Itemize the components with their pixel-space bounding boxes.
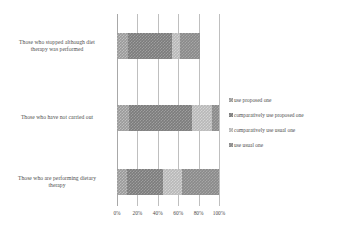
bar-segment[interactable] (212, 105, 219, 131)
category-label: Those who stopped although diettherapy w… (1, 39, 113, 54)
legend-swatch-icon (229, 143, 233, 147)
category-label-line: therapy (1, 182, 113, 190)
legend-swatch-icon (229, 128, 233, 132)
x-tick-label: 100% (207, 210, 231, 216)
category-label-line: therapy was performed (1, 46, 113, 54)
category-label: Those who have not carried out (1, 114, 113, 122)
legend-label: use proposed one (234, 93, 271, 108)
legend-item[interactable]: use proposed one (229, 93, 345, 108)
legend-swatch-icon (229, 113, 233, 117)
legend-label: comparatively use proposed one (234, 108, 304, 123)
x-axis-tick-labels: 0%20%40%60%80%100% (117, 210, 219, 222)
category-label-line: Those who have not carried out (1, 114, 113, 122)
plot-area (117, 14, 219, 206)
stacked-bar-chart: Those who stopped although diettherapy w… (0, 0, 346, 243)
bar-segment[interactable] (129, 105, 192, 131)
bar-segment[interactable] (163, 169, 182, 195)
bar-segment[interactable] (180, 33, 199, 59)
bar-segment[interactable] (117, 33, 128, 59)
legend-item[interactable]: use usual one (229, 138, 345, 153)
bar-segment[interactable] (117, 169, 127, 195)
bar-row[interactable] (117, 105, 219, 131)
legend-swatch-icon (229, 98, 233, 102)
bar-segment[interactable] (117, 105, 129, 131)
legend-label: comparatively use usual one (234, 123, 295, 138)
bar-segment[interactable] (192, 105, 211, 131)
category-label-line: Those who stopped although diet (1, 39, 113, 47)
category-label: Those who are performing dietarytherapy (1, 175, 113, 190)
chart-legend: use proposed onecomparatively use propos… (229, 93, 345, 153)
category-label-line: Those who are performing dietary (1, 175, 113, 183)
bar-row[interactable] (117, 33, 219, 59)
legend-label: use usual one (234, 138, 263, 153)
bar-segment[interactable] (128, 33, 172, 59)
bar-segment[interactable] (172, 33, 180, 59)
bar-segment[interactable] (182, 169, 219, 195)
gridline-100pct (219, 14, 220, 206)
legend-item[interactable]: comparatively use usual one (229, 123, 345, 138)
bar-segment[interactable] (127, 169, 163, 195)
legend-item[interactable]: comparatively use proposed one (229, 108, 345, 123)
bar-row[interactable] (117, 169, 219, 195)
